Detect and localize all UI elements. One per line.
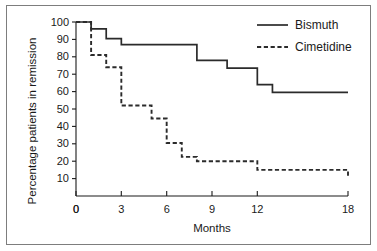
y-tick-label: 40: [57, 120, 69, 132]
x-tick-label: 9: [209, 203, 215, 215]
legend-label-cimetidine: Cimetidine: [295, 40, 352, 54]
x-tick-labels: 0 3 6 9 12 18: [73, 203, 354, 215]
x-axis-title: Months: [193, 222, 231, 234]
figure-container: Percentage patients in remission 100 90 …: [0, 0, 377, 251]
y-tick-label: 60: [57, 85, 69, 97]
y-tick-label: 50: [57, 103, 69, 115]
chart-canvas: Percentage patients in remission 100 90 …: [0, 0, 377, 251]
legend-label-bismuth: Bismuth: [295, 18, 338, 32]
series-line-bismuth: [76, 22, 348, 92]
x-tick-label: 18: [342, 203, 354, 215]
x-tick-marks: [76, 191, 348, 196]
y-tick-label: 70: [57, 68, 69, 80]
y-tick-label: 30: [57, 137, 69, 149]
legend: Bismuth Cimetidine: [257, 18, 352, 54]
x-tick-label: 12: [251, 203, 263, 215]
y-tick-label: 90: [57, 33, 69, 45]
x-tick-label: 0: [73, 203, 79, 215]
y-tick-marks: [72, 22, 76, 179]
y-tick-label: 20: [57, 155, 69, 167]
y-tick-label: 80: [57, 50, 69, 62]
y-tick-label: 10: [57, 172, 69, 184]
y-tick-labels: 100 90 80 70 60 50 40 30 20 10 0: [51, 16, 79, 216]
x-tick-label: 6: [164, 203, 170, 215]
y-axis-title: Percentage patients in remission: [26, 38, 38, 205]
x-tick-label: 3: [118, 203, 124, 215]
y-tick-label: 100: [51, 16, 69, 28]
